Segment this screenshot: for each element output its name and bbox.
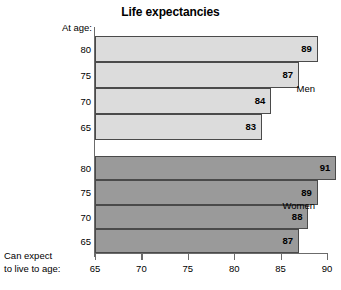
bar-women-age-80[interactable]: 91 [95,156,336,180]
bar-row: 87 [95,229,327,253]
bar-row: 91 [95,156,327,180]
y-tick-women-65: 65 [80,235,91,246]
bar-men-age-75[interactable]: 87 [95,62,299,88]
x-tick-mark-90 [327,253,328,260]
x-tick-mark-80 [234,253,235,260]
x-tick-label-70: 70 [136,263,147,274]
group-label-men: Men [297,83,315,94]
bar-value-label: 88 [292,212,308,222]
group-label-women: Women [282,199,315,210]
bar-row: 87 [95,62,327,88]
bar-women-age-70[interactable]: 88 [95,205,308,229]
x-axis-label: Can expect to live to age: [4,250,61,275]
y-tick-women-80: 80 [80,163,91,174]
bar-value-label: 87 [283,70,299,80]
life-expectancy-chart: Life expectancies At age: 89878483 91898… [0,0,341,290]
x-tick-mark-85 [281,253,282,260]
x-tick-label-80: 80 [229,263,240,274]
y-tick-men-75: 75 [80,70,91,81]
y-tick-men-65: 65 [80,122,91,133]
bar-value-label: 89 [301,188,317,198]
y-tick-women-70: 70 [80,211,91,222]
x-tick-label-65: 65 [90,263,101,274]
x-axis-line [95,253,327,254]
x-tick-label-75: 75 [183,263,194,274]
bar-value-label: 83 [245,122,261,132]
bar-row: 89 [95,36,327,62]
x-tick-label-85: 85 [275,263,286,274]
x-axis-label-line-2: to live to age: [4,263,61,276]
bar-women-age-65[interactable]: 87 [95,229,299,253]
bar-value-label: 87 [283,236,299,246]
y-tick-men-80: 80 [80,44,91,55]
x-axis-label-line-1: Can expect [4,250,61,263]
bar-row: 83 [95,114,327,140]
bar-value-label: 84 [255,96,271,106]
y-tick-men-70: 70 [80,96,91,107]
x-tick-mark-65 [95,253,96,260]
plot-area: 89878483 91898887 [95,36,327,253]
bar-men-age-70[interactable]: 84 [95,88,271,114]
bar-men-age-80[interactable]: 89 [95,36,318,62]
bar-value-label: 91 [320,163,336,173]
y-tick-women-75: 75 [80,187,91,198]
x-tick-label-90: 90 [322,263,333,274]
bar-group-men: 89878483 [95,36,327,140]
bar-men-age-65[interactable]: 83 [95,114,262,140]
x-tick-mark-70 [141,253,142,260]
x-tick-mark-75 [188,253,189,260]
bar-row: 84 [95,88,327,114]
y-tick-labels: 8075706580757065 [0,0,95,290]
bar-value-label: 89 [301,44,317,54]
